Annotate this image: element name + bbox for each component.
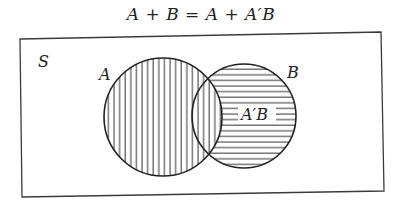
region-a-complement-b-label: A′B <box>239 105 268 124</box>
universe-label: S <box>38 52 49 71</box>
set-a-label: A <box>97 65 111 84</box>
venn-diagram: S A B A′B <box>0 0 402 207</box>
set-b-label: B <box>286 63 299 82</box>
